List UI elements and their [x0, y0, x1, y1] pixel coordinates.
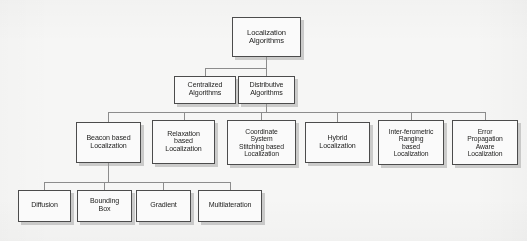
connector-to-diffusion	[44, 182, 45, 190]
node-label: Gradient	[139, 202, 188, 210]
node-label: Diffusion	[21, 202, 68, 210]
node-label: Hybrid Localization	[308, 135, 367, 150]
connector-to-gradient	[163, 182, 164, 190]
connector-to-coordinate	[261, 112, 262, 120]
node-coordinate-system-stitching-based-localization[interactable]: Coordinate System Stitching based Locali…	[227, 120, 296, 165]
node-label: Coordinate System Stitching based Locali…	[230, 128, 293, 157]
node-label: Distributive Algorithms	[241, 82, 292, 97]
node-localization-algorithms[interactable]: Localization Algorithms	[232, 17, 301, 57]
connector-to-hybrid	[337, 112, 338, 122]
connector-to-centralized	[205, 68, 206, 76]
node-gradient[interactable]: Gradient	[136, 190, 191, 222]
connector-to-distributive	[266, 68, 267, 76]
connector-level3-bus	[108, 112, 485, 113]
connector-to-bounding	[104, 182, 105, 190]
connector-level2-bus	[205, 68, 267, 69]
node-label: Beacon based Localization	[79, 135, 138, 150]
node-label: Multilateration	[201, 202, 259, 210]
node-diffusion[interactable]: Diffusion	[18, 190, 71, 222]
node-bounding-box[interactable]: Bounding Box	[77, 190, 132, 222]
connector-to-relaxation	[184, 112, 185, 120]
node-label: Relaxation based Localization	[155, 131, 212, 154]
node-beacon-based-localization[interactable]: Beacon based Localization	[76, 122, 141, 163]
connector-root-stem	[266, 57, 267, 68]
node-relaxation-based-localization[interactable]: Relaxation based Localization	[152, 120, 215, 164]
node-label: Bounding Box	[80, 198, 129, 213]
node-hybrid-localization[interactable]: Hybrid Localization	[305, 122, 370, 163]
connector-to-error	[485, 112, 486, 120]
connector-to-multilateration	[230, 182, 231, 190]
connector-to-interferometric	[411, 112, 412, 120]
node-multilateration[interactable]: Multilateration	[198, 190, 262, 222]
node-label: Centralized Algorithms	[177, 82, 233, 97]
connector-beacon-stem	[108, 163, 109, 182]
node-label: Error Propagation Aware Localization	[455, 128, 515, 157]
connector-level4-bus	[44, 182, 230, 183]
node-label: Localization Algorithms	[235, 29, 298, 45]
diagram-canvas: Localization Algorithms Centralized Algo…	[0, 0, 527, 241]
connector-to-beacon	[108, 112, 109, 122]
connector-distributive-stem	[266, 104, 267, 112]
node-interferometric-ranging-based-localization[interactable]: Inter-ferometric Ranging based Localizat…	[378, 120, 444, 165]
node-label: Inter-ferometric Ranging based Localizat…	[381, 128, 441, 157]
node-error-propagation-aware-localization[interactable]: Error Propagation Aware Localization	[452, 120, 518, 165]
node-centralized-algorithms[interactable]: Centralized Algorithms	[174, 76, 236, 104]
node-distributive-algorithms[interactable]: Distributive Algorithms	[238, 76, 295, 104]
